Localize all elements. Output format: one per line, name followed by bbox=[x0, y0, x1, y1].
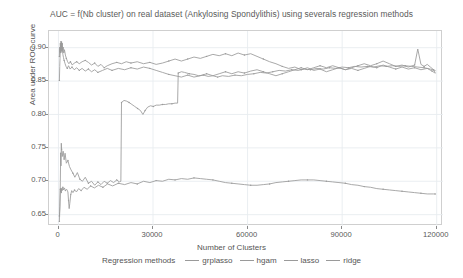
x-tick-label: 120000 bbox=[401, 230, 463, 239]
y-tick-label: 0.70 bbox=[0, 175, 46, 184]
x-tick-mark bbox=[152, 226, 153, 229]
legend-item-lasso[interactable]: lasso bbox=[284, 256, 320, 265]
legend-items: grplassohgamlassoridge bbox=[185, 256, 361, 265]
chart-title: AUC = f(Nb cluster) on real dataset (Ank… bbox=[0, 9, 463, 19]
y-tick-mark bbox=[45, 180, 48, 181]
legend-label: hgam bbox=[257, 256, 277, 265]
legend-label: lasso bbox=[301, 256, 320, 265]
y-tick-label: 0.90 bbox=[0, 42, 46, 51]
y-tick-label: 0.75 bbox=[0, 142, 46, 151]
legend-label: ridge bbox=[343, 256, 361, 265]
chart-root: AUC = f(Nb cluster) on real dataset (Ank… bbox=[0, 0, 463, 278]
y-tick-mark bbox=[45, 80, 48, 81]
plot-panel bbox=[48, 30, 442, 225]
y-tick-mark bbox=[45, 147, 48, 148]
x-tick-label: 90000 bbox=[306, 230, 376, 239]
x-tick-label: 0 bbox=[23, 230, 93, 239]
legend-key-icon bbox=[185, 260, 199, 261]
x-tick-mark bbox=[341, 226, 342, 229]
y-tick-label: 0.85 bbox=[0, 75, 46, 84]
legend-key-icon bbox=[240, 260, 254, 261]
y-tick-label: 0.80 bbox=[0, 109, 46, 118]
y-tick-mark bbox=[45, 114, 48, 115]
y-tick-mark bbox=[45, 214, 48, 215]
y-tick-mark bbox=[45, 47, 48, 48]
plot-area bbox=[49, 31, 443, 226]
x-tick-mark bbox=[247, 226, 248, 229]
legend-key-icon bbox=[284, 260, 298, 261]
legend-item-grplasso[interactable]: grplasso bbox=[185, 256, 232, 265]
legend-item-ridge[interactable]: ridge bbox=[326, 256, 361, 265]
x-tick-label: 30000 bbox=[117, 230, 187, 239]
y-axis-label: Area under ROC curve bbox=[28, 0, 37, 145]
legend: Regression methods grplassohgamlassoridg… bbox=[0, 256, 463, 265]
y-tick-label: 0.65 bbox=[0, 209, 46, 218]
x-tick-mark bbox=[436, 226, 437, 229]
legend-key-icon bbox=[326, 260, 340, 261]
x-tick-label: 60000 bbox=[212, 230, 282, 239]
legend-title: Regression methods bbox=[102, 256, 175, 265]
legend-label: grplasso bbox=[202, 256, 232, 265]
x-axis-label: Number of Clusters bbox=[0, 243, 463, 252]
x-tick-mark bbox=[58, 226, 59, 229]
legend-item-hgam[interactable]: hgam bbox=[240, 256, 277, 265]
